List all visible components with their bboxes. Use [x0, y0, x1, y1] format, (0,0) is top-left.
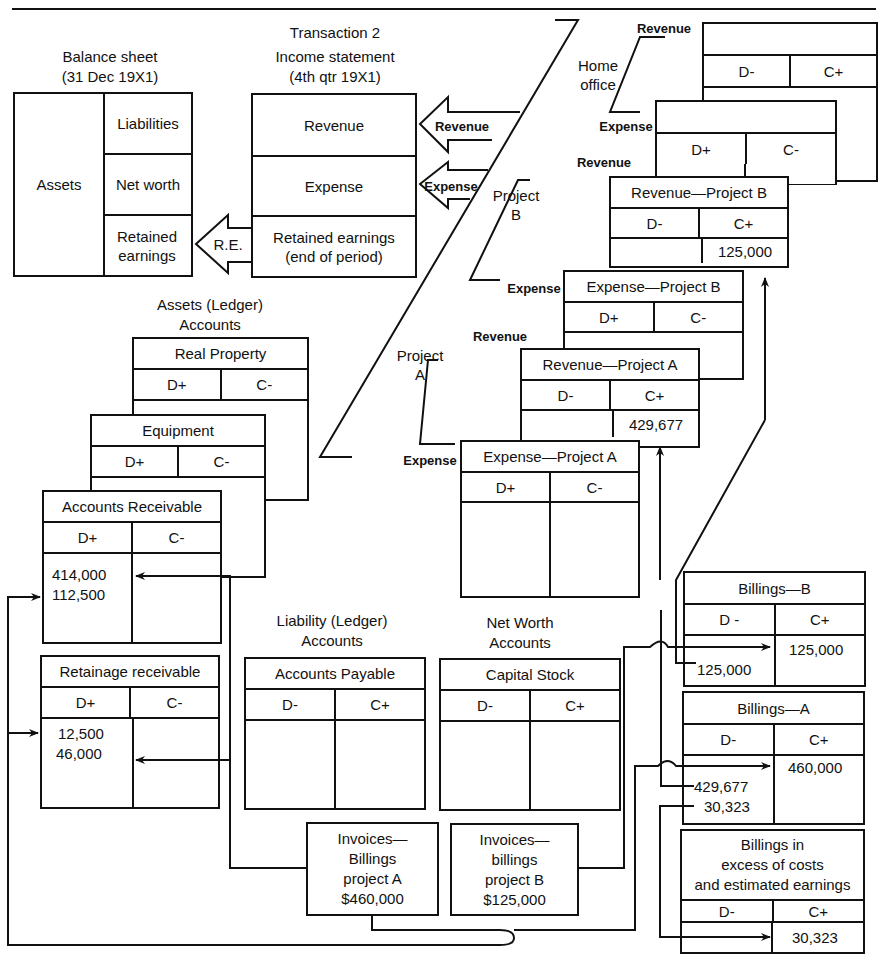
billings-a-account: Billings—A D-C+ 460,000 429,677 30,323 [682, 691, 865, 825]
expense-arrow-label: Expense [420, 178, 482, 195]
assets-cell: Assets [15, 94, 105, 275]
billings-b-credit-value: 125,000 [789, 641, 843, 658]
transaction-heading: Transaction 2 [265, 24, 405, 41]
accounts-payable-account: Accounts Payable D-C+ [244, 657, 426, 810]
revenue-a-credit-value: 429,677 [612, 411, 698, 437]
balance-sheet-title: Balance sheet [35, 48, 185, 65]
billings-a-debit-value: 30,323 [704, 798, 750, 815]
billings-b-debit-value: 125,000 [697, 661, 751, 678]
net-worth-heading2: Accounts [470, 634, 570, 651]
ho-expense-label: Expense [596, 118, 656, 135]
balance-sheet-date: (31 Dec 19X1) [35, 68, 185, 85]
pa-revenue-label: Revenue [470, 328, 530, 345]
asset-ledger-heading: Assets (Ledger) [150, 296, 270, 313]
billings-excess-account: Billings in excess of costs and estimate… [680, 829, 865, 954]
balance-sheet: Assets Liabilities Net worth Retained ea… [13, 92, 193, 277]
retained-earnings-cell: Retained earnings [107, 216, 187, 275]
income-statement-title: Income statement [255, 48, 415, 65]
ar-debit-value: 112,500 [52, 586, 105, 603]
capital-stock-account: Capital Stock D-C+ [439, 658, 621, 811]
ho-revenue-label: Revenue [634, 20, 694, 37]
revenue-arrow-label: Revenue [432, 118, 492, 135]
ar-debit-value: 414,000 [52, 566, 106, 583]
revenue-project-a-account: Revenue—Project A D-C+ 429,677 [520, 348, 700, 448]
revenue-project-b-account: Revenue—Project B D-C+ 125,000 [609, 176, 789, 268]
billings-a-debit-value: 429,677 [694, 778, 748, 795]
pa-expense-label: Expense [400, 452, 460, 469]
income-statement-period: (4th qtr 19X1) [255, 68, 415, 85]
income-statement: Revenue Expense Retained earnings (end o… [251, 93, 417, 278]
revenue-b-credit-value: 125,000 [701, 239, 787, 263]
invoice-project-b: Invoices— billings project B $125,000 [450, 823, 579, 916]
net-worth-heading: Net Worth [470, 614, 570, 631]
project-b-label: Project B [486, 186, 546, 224]
is-revenue-cell: Revenue [253, 95, 415, 157]
pb-revenue-label: Revenue [574, 154, 634, 171]
billings-excess-credit-value: 30,323 [792, 929, 838, 946]
asset-ledger-heading2: Accounts [150, 316, 270, 333]
billings-b-account: Billings—B D -C+ 125,000 125,000 [683, 571, 866, 687]
is-retained-earnings-cell: Retained earnings (end of period) [259, 217, 409, 276]
accounts-receivable-account: Accounts Receivable D+C- 414,000 112,500 [42, 490, 222, 644]
expense-project-a-account: Expense—Project A D+C- [460, 440, 640, 598]
net-worth-cell: Net worth [105, 155, 191, 216]
rr-debit-value: 46,000 [56, 745, 102, 762]
retainage-receivable-account: Retainage receivable D+C- 12,500 46,000 [40, 655, 220, 809]
project-a-label: Project A [390, 346, 450, 384]
liabilities-cell: Liabilities [105, 94, 191, 155]
pb-expense-label: Expense [504, 280, 564, 297]
rr-debit-value: 12,500 [58, 725, 104, 742]
home-office-label: Home office [568, 56, 628, 94]
re-arrow-label: R.E. [206, 236, 250, 253]
is-expense-cell: Expense [253, 157, 415, 217]
liability-ledger-heading2: Accounts [262, 632, 402, 649]
liability-ledger-heading: Liability (Ledger) [262, 612, 402, 629]
invoice-project-a: Invoices— Billings project A $460,000 [306, 822, 439, 916]
top-rule [12, 8, 876, 10]
billings-a-credit-value: 460,000 [788, 759, 842, 776]
